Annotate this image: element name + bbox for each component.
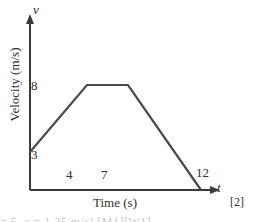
x-tick-label-7: 7 <box>101 168 108 181</box>
clipped-label-artifact-left: ) <box>0 4 6 20</box>
clipped-text-artifact-bottom: = 5, a = 1.25 m/s² [M1][W1] <box>0 215 200 222</box>
y-tick-label-3: 3 <box>31 148 38 161</box>
graph-canvas <box>0 0 260 222</box>
x-axis-variable-label: t <box>217 181 221 194</box>
y-axis-variable-label: v <box>33 3 39 16</box>
y-tick-label-8: 8 <box>31 79 38 92</box>
x-tick-label-12: 12 <box>196 166 209 179</box>
marks-allocation: [2] <box>230 196 244 208</box>
x-tick-label-4: 4 <box>66 168 73 181</box>
velocity-trace <box>30 85 201 190</box>
x-axis-title: Time (s) <box>60 196 170 209</box>
velocity-time-figure: v t Velocity (m/s) Time (s) 8 3 4 7 12 [… <box>0 0 260 222</box>
y-axis-title: Velocity (m/s) <box>8 43 21 127</box>
